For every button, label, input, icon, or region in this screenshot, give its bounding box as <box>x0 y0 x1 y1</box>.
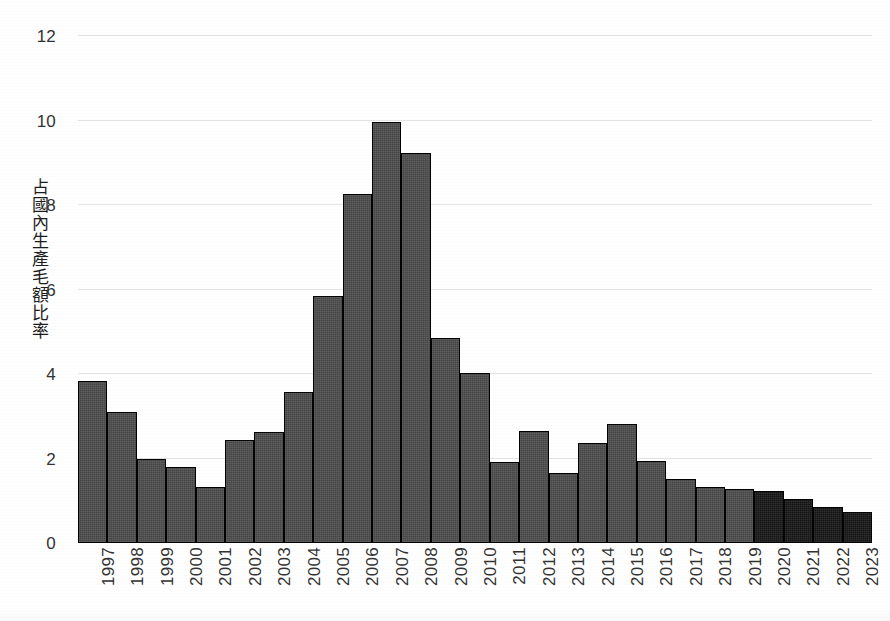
bar-slot <box>784 36 813 543</box>
y-tick-label: 4 <box>46 366 56 383</box>
bar-slot <box>372 36 401 543</box>
x-tick-slot: 2005 <box>313 545 342 621</box>
bar <box>137 459 166 543</box>
y-axis-tick-labels: 024681012 <box>0 36 68 543</box>
bar-slot <box>549 36 578 543</box>
bar <box>843 512 872 543</box>
bar <box>284 392 313 543</box>
bar-slot <box>284 36 313 543</box>
bar-chart: 占國內生產毛額比率 024681012 19971998199920002001… <box>0 0 890 621</box>
x-tick-slot: 2003 <box>254 545 283 621</box>
x-tick-slot: 2007 <box>372 545 401 621</box>
bar-slot <box>343 36 372 543</box>
x-tick-slot: 2008 <box>401 545 430 621</box>
bar <box>784 499 813 543</box>
x-tick-slot: 2002 <box>225 545 254 621</box>
bar-slot <box>225 36 254 543</box>
x-tick-slot: 2009 <box>431 545 460 621</box>
x-tick-slot: 2012 <box>519 545 548 621</box>
bar <box>372 122 401 543</box>
plot-area <box>78 36 872 543</box>
bar <box>166 467 195 543</box>
bar <box>666 479 695 543</box>
x-tick-slot: 2011 <box>490 545 519 621</box>
x-tick-slot: 2022 <box>813 545 842 621</box>
bar-slot <box>196 36 225 543</box>
bar <box>578 443 607 543</box>
x-tick-slot: 1997 <box>78 545 107 621</box>
x-tick-slot: 2001 <box>196 545 225 621</box>
bar-slot <box>696 36 725 543</box>
y-tick-label: 8 <box>46 197 56 214</box>
x-tick-slot: 2014 <box>578 545 607 621</box>
x-tick-slot: 2004 <box>284 545 313 621</box>
x-tick-slot: 2006 <box>343 545 372 621</box>
bar-slot <box>490 36 519 543</box>
bar-slot <box>637 36 666 543</box>
y-tick-label: 12 <box>37 28 56 45</box>
bar-slot <box>107 36 136 543</box>
x-tick-slot: 2021 <box>784 545 813 621</box>
bar <box>696 487 725 543</box>
bar-slot <box>313 36 342 543</box>
bar <box>107 412 136 543</box>
bar <box>313 296 342 543</box>
bar <box>754 491 783 543</box>
bar <box>460 373 489 543</box>
bar-slot <box>166 36 195 543</box>
bar-slot <box>254 36 283 543</box>
x-tick-slot: 2000 <box>166 545 195 621</box>
x-tick-slot: 1999 <box>137 545 166 621</box>
x-tick-slot: 2023 <box>843 545 872 621</box>
bar-slot <box>666 36 695 543</box>
x-tick-slot: 2019 <box>725 545 754 621</box>
x-tick-slot: 2018 <box>696 545 725 621</box>
bar-slot <box>725 36 754 543</box>
bar <box>725 489 754 543</box>
bar <box>343 194 372 543</box>
bar <box>401 153 430 543</box>
bar <box>519 431 548 543</box>
bar <box>254 432 283 543</box>
bar-slot <box>754 36 783 543</box>
x-tick-slot: 2016 <box>637 545 666 621</box>
y-tick-label: 10 <box>37 112 56 129</box>
bar-slot <box>460 36 489 543</box>
bar <box>225 440 254 543</box>
bar-slot <box>578 36 607 543</box>
x-tick-label: 2023 <box>864 547 881 586</box>
y-tick-label: 2 <box>46 450 56 467</box>
bar <box>549 473 578 543</box>
y-tick-label: 0 <box>46 535 56 552</box>
bar-slot <box>519 36 548 543</box>
bar <box>490 462 519 543</box>
bar-slot <box>431 36 460 543</box>
bar-slot <box>813 36 842 543</box>
bar <box>607 424 636 543</box>
x-tick-slot: 2013 <box>549 545 578 621</box>
bar-slot <box>78 36 107 543</box>
bar <box>78 381 107 543</box>
x-tick-slot: 1998 <box>107 545 136 621</box>
bar-series <box>78 36 872 543</box>
bar-slot <box>843 36 872 543</box>
x-tick-slot: 2010 <box>460 545 489 621</box>
bar <box>637 461 666 543</box>
bar-slot <box>401 36 430 543</box>
bar-slot <box>137 36 166 543</box>
x-tick-slot: 2015 <box>607 545 636 621</box>
bar <box>431 338 460 543</box>
x-tick-slot: 2017 <box>666 545 695 621</box>
y-tick-label: 6 <box>46 281 56 298</box>
x-tick-slot: 2020 <box>754 545 783 621</box>
bar <box>813 507 842 543</box>
bar-slot <box>607 36 636 543</box>
x-axis-tick-labels: 1997199819992000200120022003200420052006… <box>78 545 872 621</box>
bar <box>196 487 225 543</box>
